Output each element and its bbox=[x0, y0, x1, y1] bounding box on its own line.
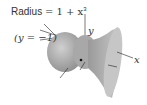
axis-label-y-minus-one: (y = −1) bbox=[14, 33, 57, 43]
axis-label-y: y bbox=[88, 26, 94, 36]
radius-label: Radius = 1 + x3 bbox=[11, 6, 87, 17]
origin-point bbox=[80, 59, 83, 62]
solid-of-revolution-diagram: Radius = 1 + x3 (y = −1) y x bbox=[0, 0, 147, 105]
axis-label-x: x bbox=[134, 55, 140, 65]
